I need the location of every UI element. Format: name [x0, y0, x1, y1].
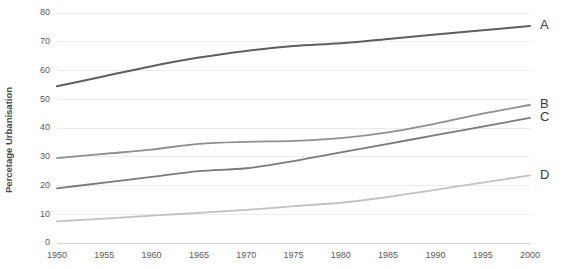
- x-axis-tick-label: 2000: [520, 250, 540, 260]
- x-axis-tick-label: 1970: [236, 250, 256, 260]
- x-axis-tick-label: 1965: [189, 250, 209, 260]
- x-axis-tick-label: 1985: [378, 250, 398, 260]
- series-label-a: A: [540, 17, 549, 32]
- y-axis-tick-label: 80: [40, 7, 50, 17]
- series-label-c: C: [540, 109, 549, 124]
- series-line-c: [57, 118, 530, 188]
- x-axis-tick-label: 1955: [94, 250, 114, 260]
- series-line-a: [57, 26, 530, 86]
- y-axis-tick-labels: 01020304050607080: [40, 7, 50, 247]
- gridlines: [57, 13, 530, 243]
- series-end-labels: ABCD: [540, 17, 549, 182]
- x-axis-tick-labels: 1950195519601965197019751980198519901995…: [47, 250, 540, 260]
- series-label-d: D: [540, 167, 549, 182]
- y-axis-tick-label: 30: [40, 151, 50, 161]
- y-axis-tick-label: 0: [45, 237, 50, 247]
- x-axis-tick-label: 1960: [142, 250, 162, 260]
- x-axis-tick-label: 1995: [473, 250, 493, 260]
- x-axis-tick-label: 1950: [47, 250, 67, 260]
- data-series-lines: [57, 26, 530, 222]
- line-chart: 01020304050607080 1950195519601965197019…: [0, 0, 576, 269]
- y-axis-tick-label: 20: [40, 180, 50, 190]
- chart-container: 01020304050607080 1950195519601965197019…: [0, 0, 576, 269]
- y-axis-tick-label: 60: [40, 65, 50, 75]
- x-axis-tick-label: 1980: [331, 250, 351, 260]
- y-axis-tick-label: 40: [40, 122, 50, 132]
- y-axis-tick-label: 70: [40, 36, 50, 46]
- y-axis-title: Percetage Urbanisation: [3, 87, 14, 193]
- y-axis-tick-label: 10: [40, 209, 50, 219]
- y-axis-tick-label: 50: [40, 94, 50, 104]
- x-axis-tick-label: 1990: [425, 250, 445, 260]
- x-axis-tick-label: 1975: [283, 250, 303, 260]
